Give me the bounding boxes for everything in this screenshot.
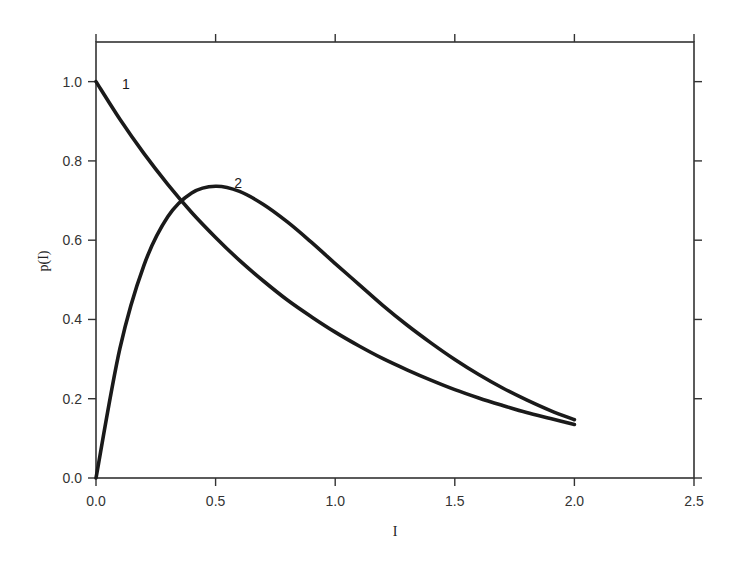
y-axis-label: p(I) bbox=[36, 250, 52, 271]
y-tick-label: 1.0 bbox=[63, 74, 83, 90]
data-curves bbox=[96, 82, 574, 478]
y-tick-label: 0.4 bbox=[63, 311, 83, 327]
curve-1 bbox=[96, 82, 574, 425]
x-tick-label: 1.0 bbox=[325, 493, 345, 509]
curve-label-1: 1 bbox=[122, 76, 130, 92]
x-tick-label: 2.0 bbox=[565, 493, 585, 509]
y-tick-label: 0.6 bbox=[63, 232, 83, 248]
x-tick-labels: 0.00.51.01.52.02.5 bbox=[86, 493, 704, 509]
x-axis-label: I bbox=[393, 524, 398, 539]
x-tick-label: 0.0 bbox=[86, 493, 106, 509]
y-tick-label: 0.8 bbox=[63, 153, 83, 169]
curve-label-2: 2 bbox=[234, 175, 242, 191]
y-tick-label: 0.0 bbox=[63, 470, 83, 486]
x-tick-label: 1.5 bbox=[445, 493, 465, 509]
plot-frame bbox=[96, 42, 694, 478]
curve-labels: 12 bbox=[122, 76, 242, 191]
x-tick-label: 2.5 bbox=[684, 493, 704, 509]
line-chart: 0.00.51.01.52.02.5 0.00.20.40.60.81.0 12… bbox=[0, 0, 734, 566]
x-tick-label: 0.5 bbox=[206, 493, 226, 509]
y-tick-label: 0.2 bbox=[63, 391, 83, 407]
axis-ticks bbox=[88, 34, 702, 486]
y-tick-labels: 0.00.20.40.60.81.0 bbox=[63, 74, 83, 486]
plot-border bbox=[96, 42, 694, 478]
